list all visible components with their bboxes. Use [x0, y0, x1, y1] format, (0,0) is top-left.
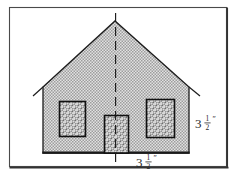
- width-label-numerator: 1: [147, 153, 151, 162]
- width-label-denominator: 2: [147, 162, 151, 171]
- front-door-frame: [105, 116, 129, 154]
- width-label-unit: ″: [154, 154, 157, 163]
- left-window-frame: [60, 102, 86, 137]
- height-label-denominator: 2: [206, 123, 210, 132]
- width-label-whole: 3: [136, 155, 143, 170]
- height-label-whole: 3: [195, 116, 202, 131]
- left-window: [60, 102, 86, 137]
- height-label-unit: ″: [213, 115, 216, 124]
- right-window-frame: [147, 100, 175, 138]
- house-symmetry-diagram: 3 1 2 ″ 3 1 2 ″: [0, 0, 238, 181]
- right-window: [147, 100, 175, 138]
- figure-canvas: 3 1 2 ″ 3 1 2 ″: [0, 0, 238, 181]
- height-label-numerator: 1: [206, 114, 210, 123]
- front-door: [105, 116, 129, 154]
